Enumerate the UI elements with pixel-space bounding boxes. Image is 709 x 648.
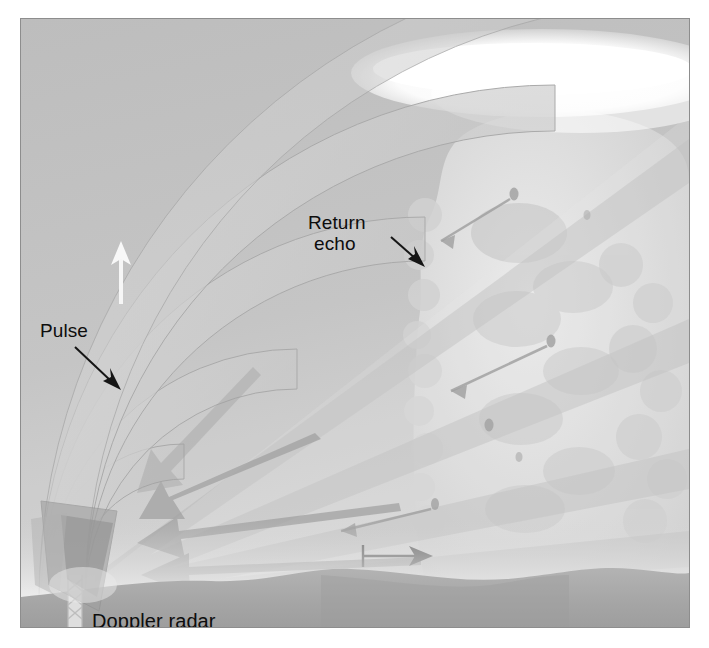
illustration-frame: Pulse Returnecho Doppler radar — [20, 18, 690, 628]
radar-scene — [21, 19, 689, 627]
scan-texture — [21, 19, 689, 627]
figure-root: Pulse Returnecho Doppler radar — [0, 0, 709, 648]
